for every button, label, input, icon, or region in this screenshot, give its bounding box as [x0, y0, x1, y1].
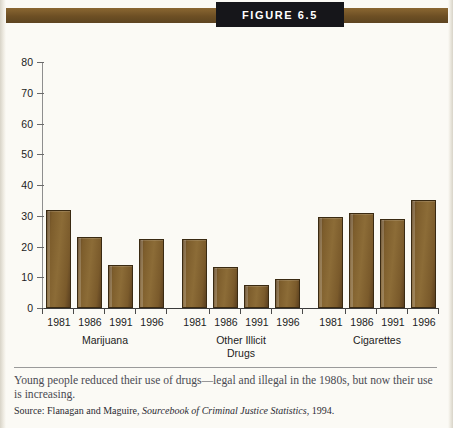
x-tick-label: 1991 — [376, 316, 410, 328]
bar-highlight — [79, 238, 81, 307]
bar-group — [182, 62, 300, 308]
x-tick-label: 1991 — [104, 316, 138, 328]
y-tick-mark — [37, 62, 44, 63]
x-tick-label: 1981 — [42, 316, 76, 328]
x-tick-mark — [376, 308, 377, 314]
bar-highlight — [320, 218, 322, 307]
x-tick-mark — [135, 308, 136, 314]
bar — [182, 239, 207, 308]
x-tick-mark — [407, 308, 408, 314]
bar — [77, 237, 102, 308]
x-tick-label: 1986 — [209, 316, 243, 328]
x-tick-mark — [42, 308, 43, 314]
figure-source: Source: Flanagan and Maguire, Sourcebook… — [14, 405, 439, 417]
bar — [318, 217, 343, 308]
bar — [46, 210, 71, 308]
x-tick-mark — [345, 308, 346, 314]
source-suffix: , 1994. — [307, 405, 335, 416]
y-tick-label: 70 — [0, 88, 33, 98]
x-tick-label: 1996 — [271, 316, 305, 328]
source-prefix: Source: Flanagan and Maguire, — [14, 405, 142, 416]
bar — [380, 219, 405, 308]
x-tick-mark — [209, 308, 210, 314]
bar-highlight — [48, 211, 50, 307]
figure-page: Figure 6.5 01020304050607080 19811986199… — [0, 0, 453, 428]
y-tick-label: 60 — [0, 119, 33, 129]
x-tick-label: 1981 — [178, 316, 212, 328]
y-tick-label: 10 — [0, 272, 33, 282]
x-tick-label: 1996 — [407, 316, 441, 328]
y-tick-label: 20 — [0, 242, 33, 252]
bar — [139, 239, 164, 308]
source-title: Sourcebook of Criminal Justice Statistic… — [142, 405, 307, 416]
bar-highlight — [351, 214, 353, 307]
x-tick-mark — [240, 308, 241, 314]
group-label: Other IllicitDrugs — [182, 334, 300, 359]
group-label: Cigarettes — [318, 334, 436, 347]
group-label-line: Cigarettes — [318, 334, 436, 347]
x-tick-mark — [438, 308, 439, 314]
y-tick-mark — [37, 93, 44, 94]
bar-highlight — [246, 286, 248, 307]
figure-caption: Young people reduced their use of drugs—… — [14, 374, 439, 401]
x-tick-mark — [302, 308, 303, 314]
x-tick-mark — [271, 308, 272, 314]
bar-highlight — [184, 240, 186, 307]
y-tick-mark — [37, 216, 44, 217]
x-tick-mark — [104, 308, 105, 314]
group-label-line: Drugs — [182, 347, 300, 360]
group-label-line: Other Illicit — [182, 334, 300, 347]
y-tick-mark — [37, 247, 44, 248]
group-label-line: Marijuana — [46, 334, 164, 347]
x-tick-label: 1986 — [345, 316, 379, 328]
bar — [411, 200, 436, 308]
bar — [108, 265, 133, 308]
y-tick-mark — [37, 124, 44, 125]
y-tick-label: 30 — [0, 211, 33, 221]
x-tick-mark — [166, 308, 167, 314]
y-tick-label: 50 — [0, 149, 33, 159]
x-tick-label: 1991 — [240, 316, 274, 328]
figure-number-badge: Figure 6.5 — [216, 2, 344, 27]
bar-highlight — [413, 201, 415, 307]
figure-number-label: Figure 6.5 — [242, 9, 318, 21]
y-tick-mark — [37, 185, 44, 186]
x-tick-label: 1981 — [314, 316, 348, 328]
bar-highlight — [110, 266, 112, 307]
y-tick-label: 80 — [0, 57, 33, 67]
bar-group — [46, 62, 164, 308]
y-tick-label: 0 — [0, 303, 33, 313]
group-label: Marijuana — [46, 334, 164, 347]
bar-highlight — [382, 220, 384, 307]
x-tick-label: 1986 — [73, 316, 107, 328]
bar-group — [318, 62, 436, 308]
bar-chart: 01020304050607080 1981198619911996Mariju… — [0, 30, 453, 360]
x-tick-mark — [73, 308, 74, 314]
y-tick-mark — [37, 277, 44, 278]
bar-highlight — [277, 280, 279, 307]
bar — [213, 267, 238, 309]
bar — [275, 279, 300, 308]
y-tick-mark — [37, 154, 44, 155]
caption-divider — [14, 367, 437, 368]
x-tick-label: 1996 — [135, 316, 169, 328]
bar — [349, 213, 374, 308]
bar-highlight — [215, 268, 217, 308]
bar — [244, 285, 269, 308]
bar-highlight — [141, 240, 143, 307]
y-tick-label: 40 — [0, 180, 33, 190]
